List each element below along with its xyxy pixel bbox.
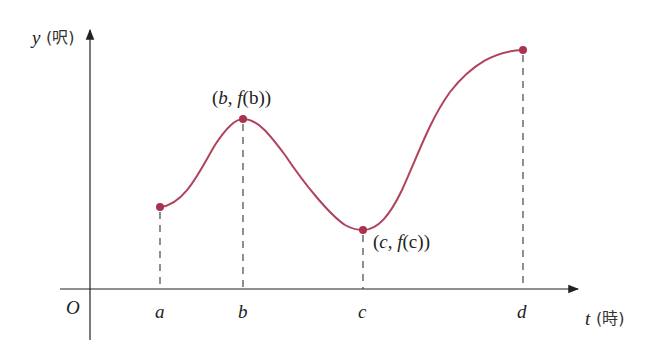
point-label-b: (b, f(b)) <box>212 87 271 109</box>
point-a <box>156 203 164 211</box>
t-axis-label: t <box>585 308 591 329</box>
point-b <box>239 115 247 123</box>
tick-label-d: d <box>517 301 527 322</box>
point-d <box>519 46 527 54</box>
point-label-c-arg: (c)) <box>403 231 430 253</box>
y-axis-unit: (呎) <box>46 28 74 47</box>
function-curve <box>160 50 523 230</box>
point-c <box>359 226 367 234</box>
t-axis-unit: (時) <box>596 309 624 328</box>
tick-label-a: a <box>155 301 165 322</box>
point-label-c-sep: , <box>388 231 398 252</box>
point-label-b-var: b <box>218 87 228 108</box>
point-label-b-sep: , <box>228 87 238 108</box>
tick-label-c: c <box>358 301 367 322</box>
origin-label: O <box>66 297 80 318</box>
point-label-b-arg: (b)) <box>243 87 271 109</box>
tick-label-b: b <box>238 301 248 322</box>
y-axis-label: y <box>30 27 41 48</box>
function-graph: y (呎) O a b c d t (時) (b, f(b)) (c, f(c)… <box>0 0 660 354</box>
point-label-c: (c, f(c)) <box>373 231 430 253</box>
